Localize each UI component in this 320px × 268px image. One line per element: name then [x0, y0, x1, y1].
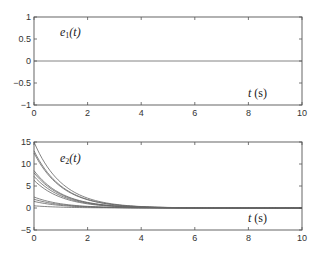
x-tick-label: 4: [139, 108, 144, 118]
x-tick-label: 0: [31, 233, 36, 243]
y-tick-label: 5: [26, 181, 31, 191]
x-tick-label: 6: [192, 108, 197, 118]
y-tick-label: 15: [21, 137, 31, 147]
series-line: [34, 171, 302, 208]
axes-1: 0246810−1−0.500.51e1(t)t (s): [13, 12, 307, 118]
x-tick-label: 4: [139, 233, 144, 243]
x-tick-label: 8: [246, 108, 251, 118]
y-tick-label: −1: [21, 100, 31, 110]
x-tick-label: 2: [85, 108, 90, 118]
axes-2: 0246810−5051015e2(t)t (s): [21, 137, 307, 243]
series-line: [34, 201, 302, 208]
y-tick-label: −5: [21, 225, 31, 235]
y-tick-label: 0: [26, 203, 31, 213]
y-tick-label: 0.5: [18, 34, 31, 44]
figure: 0246810−1−0.500.51e1(t)t (s)0246810−5051…: [0, 0, 320, 268]
x-tick-label: 6: [192, 233, 197, 243]
y-tick-label: 1: [26, 12, 31, 22]
x-tick-label: 0: [31, 108, 36, 118]
x-tick-label: 10: [297, 233, 307, 243]
series-label: e2(t): [60, 151, 81, 166]
x-axis-label: t (s): [248, 86, 267, 100]
y-tick-label: 10: [21, 159, 31, 169]
x-axis-label: t (s): [248, 211, 267, 225]
series-line: [34, 173, 302, 208]
y-tick-label: −0.5: [13, 78, 31, 88]
series-label: e1(t): [60, 25, 81, 40]
x-tick-label: 8: [246, 233, 251, 243]
x-tick-label: 2: [85, 233, 90, 243]
x-tick-label: 10: [297, 108, 307, 118]
y-tick-label: 0: [26, 56, 31, 66]
